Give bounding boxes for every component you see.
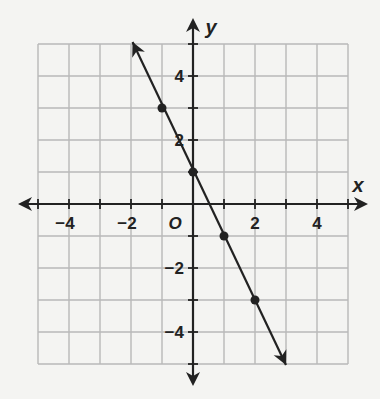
- y-tick-label: 4: [175, 67, 185, 86]
- y-axis-label: y: [204, 16, 217, 38]
- y-tick-label: −4: [165, 323, 185, 342]
- coordinate-plane: −4−22442−2−4Oxy: [0, 0, 380, 399]
- data-point: [220, 232, 229, 241]
- data-point: [158, 104, 167, 113]
- y-tick-label: −2: [165, 259, 184, 278]
- origin-label: O: [168, 214, 181, 233]
- x-axis-label: x: [351, 174, 364, 196]
- tick-labels: −4−22442−2−4Oxy: [55, 16, 364, 342]
- x-tick-label: −2: [117, 214, 136, 233]
- data-point: [189, 168, 198, 177]
- x-tick-label: 2: [250, 214, 259, 233]
- axes: [18, 18, 368, 386]
- x-tick-label: 4: [312, 214, 322, 233]
- data-point: [251, 296, 260, 305]
- x-tick-label: −4: [55, 214, 75, 233]
